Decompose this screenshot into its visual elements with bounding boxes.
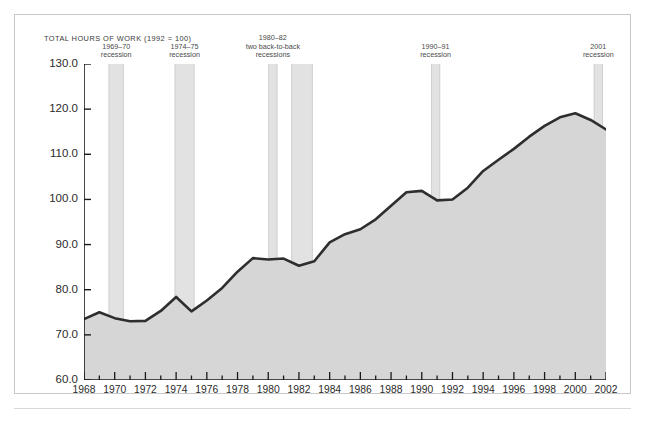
y-tick-label: 120.0 [36,102,78,114]
chart-figure: TOTAL HOURS OF WORK (1992 = 100) 60.070.… [0,0,655,423]
recession-label-line: recessions [223,51,323,60]
recession-label-line: recession [548,51,648,60]
y-tick-label: 80.0 [36,283,78,295]
chart-svg [84,64,606,380]
y-tick-label: 110.0 [36,147,78,159]
area-fill [84,113,606,380]
recession-label: 1974–75recession [135,43,235,60]
recession-label: 1980–82two back-to-backrecessions [223,34,323,60]
y-tick-label: 70.0 [36,328,78,340]
y-tick-label: 100.0 [36,192,78,204]
y-tick-label: 90.0 [36,238,78,250]
recession-label-line: recession [135,51,235,60]
recession-label: 1990–91recession [386,43,486,60]
recession-label-line: recession [386,51,486,60]
plot-area [84,64,606,380]
recession-label: 2001recession [548,43,648,60]
x-tick-label: 2002 [586,384,626,395]
figure-bottom-rule [14,408,631,409]
